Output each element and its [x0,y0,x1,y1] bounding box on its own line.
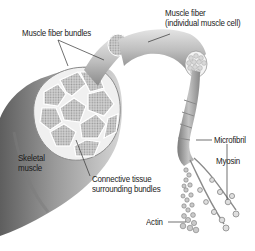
myosin-filaments [190,158,239,231]
label-connective-tissue: Connective tissue surrounding bundles [92,174,160,194]
label-microfibril: Microfibril [214,135,246,145]
label-myosin: Myosin [216,156,240,166]
label-connective-line1: Connective tissue [92,174,160,184]
label-actin: Actin [146,217,163,227]
label-muscle-fiber-bundles: Muscle fiber bundles [22,28,91,38]
microfibril-strand [177,70,200,166]
label-muscle-fiber: Muscle fiber (individual muscle cell) [165,8,240,28]
label-connective-line2: surrounding bundles [92,184,160,194]
label-muscle-fiber-line1: Muscle fiber [165,8,240,18]
label-muscle-fiber-line2: (individual muscle cell) [165,18,240,28]
label-skeletal-muscle: Skeletal muscle [18,153,45,173]
label-skeletal-line1: Skeletal [18,153,45,163]
bundle-cross-section [34,67,121,160]
label-skeletal-line2: muscle [18,163,45,173]
actin-filaments [180,168,199,233]
